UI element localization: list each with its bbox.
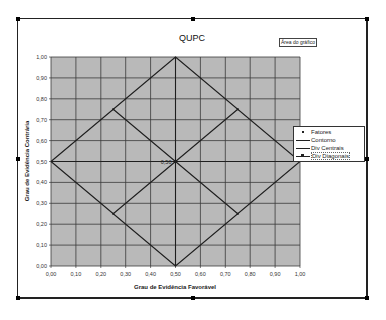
series-marker — [112, 213, 114, 215]
x-tick-label: 0,80 — [245, 271, 256, 277]
series-marker — [175, 161, 177, 163]
y-tick-label: 0,00 — [36, 263, 47, 269]
y-tick-label: 0,10 — [36, 242, 47, 248]
y-tick-label: 0,60 — [36, 138, 47, 144]
line-icon — [296, 136, 310, 144]
series-marker — [112, 108, 114, 110]
line-marker-icon — [296, 152, 310, 160]
x-tick-label: 0,60 — [195, 271, 206, 277]
x-tick-label: 0,20 — [95, 271, 106, 277]
series-marker — [237, 213, 239, 215]
y-tick-label: 1,00 — [36, 54, 47, 60]
y-axis-title: Grau de Evidência Contrária — [24, 120, 30, 201]
y-tick-label: 0,90 — [36, 75, 47, 81]
x-tick-label: 0,30 — [120, 271, 131, 277]
x-tick-label: 0,00 — [46, 271, 57, 277]
x-tick-label: 0,50 — [170, 271, 181, 277]
line-icon — [296, 144, 310, 152]
chart-legend[interactable]: Fatores Contorno Div Centrais Div Diagon… — [293, 126, 365, 162]
legend-label: Div Diagonais — [311, 152, 350, 160]
dot-marker-icon — [296, 128, 310, 136]
x-tick-label: 0,70 — [220, 271, 231, 277]
legend-item-div-centrais[interactable]: Div Centrais — [296, 144, 362, 152]
legend-label: Fatores — [311, 129, 331, 135]
y-tick-label: 0,70 — [36, 117, 47, 123]
legend-item-fatores[interactable]: Fatores — [296, 128, 362, 136]
y-tick-label: 0,80 — [36, 96, 47, 102]
legend-label: Div Centrais — [311, 145, 344, 151]
legend-item-contorno[interactable]: Contorno — [296, 136, 362, 144]
y-tick-label: 0,20 — [36, 221, 47, 227]
x-axis-title: Grau de Evidência Favorável — [134, 284, 216, 290]
legend-label: Contorno — [311, 137, 336, 143]
chart-area-tooltip: Área do gráfico — [279, 38, 317, 47]
legend-item-div-diagonais[interactable]: Div Diagonais — [296, 152, 362, 160]
y-tick-label: 0,40 — [36, 179, 47, 185]
x-tick-label: 0,10 — [71, 271, 82, 277]
y-tick-label: 0,50 — [36, 159, 47, 165]
x-tick-label: 0,90 — [270, 271, 281, 277]
y-tick-label: 0,30 — [36, 200, 47, 206]
x-tick-label: 1,00 — [295, 271, 306, 277]
series-marker — [237, 108, 239, 110]
x-tick-label: 0,40 — [145, 271, 156, 277]
